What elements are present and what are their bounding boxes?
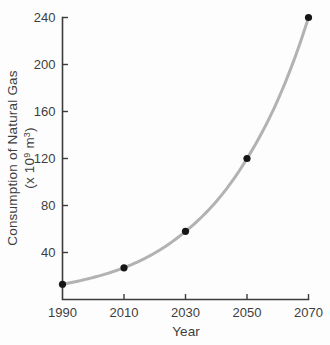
- data-point: [59, 281, 66, 288]
- x-tick-label: 2010: [110, 305, 139, 320]
- y-tick-label: 240: [34, 10, 56, 25]
- y-axis-title-line1: Consumption of Natural Gas: [4, 70, 21, 246]
- x-axis-title: Year: [172, 324, 199, 339]
- y-unit-mid: m: [22, 137, 37, 152]
- data-point: [243, 155, 250, 162]
- y-tick-label: 80: [41, 198, 55, 213]
- chart-canvas: 408012016020024019902010203020502070: [0, 0, 330, 345]
- data-point: [120, 264, 127, 271]
- y-axis-title-line2: (x 109 m3): [21, 70, 38, 246]
- y-unit-exponent-2: 3: [22, 132, 32, 137]
- x-tick-label: 2070: [294, 305, 323, 320]
- x-tick-label: 1990: [48, 305, 77, 320]
- y-unit-close: ): [22, 127, 37, 132]
- x-tick-label: 2050: [233, 305, 262, 320]
- data-point: [305, 14, 312, 21]
- y-tick-label: 40: [41, 245, 55, 260]
- data-curve: [63, 18, 309, 285]
- axes: [63, 18, 309, 300]
- y-unit-open: (x 10: [22, 158, 37, 189]
- chart-figure: 408012016020024019902010203020502070 Con…: [0, 0, 330, 345]
- data-point: [182, 228, 189, 235]
- y-unit-exponent: 9: [22, 153, 32, 158]
- x-tick-label: 2030: [171, 305, 200, 320]
